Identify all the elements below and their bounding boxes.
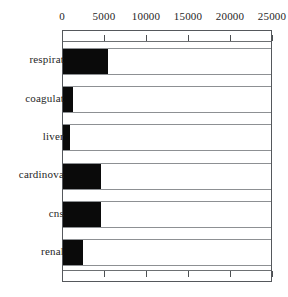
bar-row-track — [63, 201, 271, 228]
bar-row — [63, 234, 271, 272]
bar — [63, 49, 108, 74]
y-axis-category-label: cns — [49, 207, 64, 220]
x-axis-bottom — [63, 270, 271, 281]
bar-row-track — [63, 86, 271, 113]
y-axis-category-label: respirat — [29, 53, 64, 66]
y-axis-category-label: liver — [43, 130, 64, 143]
bar-chart-figure: 0500010000150002000025000 respiratcoagul… — [0, 0, 288, 297]
bar — [63, 164, 101, 189]
bar-row — [63, 119, 271, 157]
x-axis-tick-mark — [104, 271, 105, 277]
x-axis-tick-mark — [146, 271, 147, 277]
bar — [63, 202, 101, 227]
y-axis-category-label: cardinova — [19, 168, 64, 181]
x-axis-tick-label: 5000 — [93, 10, 116, 23]
x-axis-tick-mark — [230, 35, 231, 41]
x-axis-tick-mark — [146, 35, 147, 41]
bar-row — [63, 195, 271, 233]
x-axis-top — [63, 31, 271, 42]
bar — [63, 87, 73, 112]
x-axis-tick-label: 20000 — [216, 10, 245, 23]
x-axis-tick-label: 15000 — [174, 10, 203, 23]
x-axis-tick-label: 0 — [59, 10, 65, 23]
bar — [63, 125, 70, 150]
bar-row-track — [63, 163, 271, 190]
plot-area — [62, 30, 272, 282]
bar-row-track — [63, 48, 271, 75]
x-axis-tick-label: 25000 — [258, 10, 287, 23]
bar-rows — [63, 42, 271, 270]
bar-row-track — [63, 124, 271, 151]
y-axis-category-label: renal — [41, 245, 64, 258]
bar — [63, 240, 83, 265]
y-axis-category-label: coagulat — [25, 92, 64, 105]
x-axis-tick-mark — [272, 35, 273, 41]
bar-row — [63, 80, 271, 118]
x-axis-tick-mark — [188, 35, 189, 41]
bar-row — [63, 157, 271, 195]
x-axis-tick-mark — [188, 271, 189, 277]
x-axis-tick-label: 10000 — [132, 10, 161, 23]
bar-row-track — [63, 239, 271, 266]
x-axis-tick-mark — [272, 271, 273, 277]
x-axis-tick-mark — [230, 271, 231, 277]
x-axis-tick-mark — [104, 35, 105, 41]
bar-row — [63, 42, 271, 80]
